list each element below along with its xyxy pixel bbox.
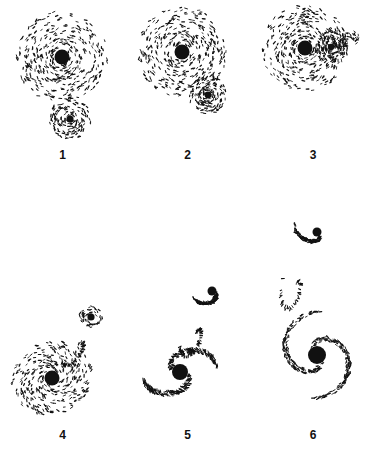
panel-4-plot — [0, 185, 125, 430]
panel-2-particles — [138, 7, 226, 113]
panel-5-particles — [143, 287, 219, 397]
panel-label-2: 2 — [125, 148, 250, 162]
panel-5-plot — [125, 185, 250, 430]
panel-5-primary-disk — [143, 347, 218, 396]
panel-2-plot — [125, 0, 250, 150]
panel-6-primary-spiral — [283, 311, 351, 399]
panel-4-particles — [11, 306, 102, 415]
panel-1-particles — [16, 11, 107, 138]
panel-4-primary-disk — [11, 341, 92, 414]
panel-1-companion-disk — [50, 98, 91, 138]
panel-6-particles — [279, 223, 351, 400]
panel-5 — [125, 185, 250, 430]
panel-6-plot — [250, 185, 376, 430]
galaxy-merger-figure: 123456 — [0, 0, 376, 463]
panel-3-particles — [262, 6, 358, 91]
panel-5-companion-disk — [193, 287, 219, 305]
panel-label-1: 1 — [0, 148, 125, 162]
panel-1 — [0, 0, 125, 150]
panel-label-4: 4 — [0, 428, 125, 442]
panel-label-3: 3 — [250, 148, 376, 162]
panel-6-scattered-debris — [279, 279, 302, 311]
panel-2-companion-disk — [190, 77, 226, 113]
panel-6 — [250, 185, 376, 430]
panel-6-companion-cluster — [294, 223, 322, 244]
panel-2-primary-disk — [138, 7, 226, 96]
panel-label-6: 6 — [250, 428, 376, 442]
panel-1-primary-disk — [16, 11, 107, 101]
panel-4 — [0, 185, 125, 430]
panel-3 — [250, 0, 376, 150]
panel-4-companion-ring — [79, 306, 102, 328]
panel-label-5: 5 — [125, 428, 250, 442]
panel-2 — [125, 0, 250, 150]
panel-1-plot — [0, 0, 125, 150]
panel-3-plot — [250, 0, 376, 150]
